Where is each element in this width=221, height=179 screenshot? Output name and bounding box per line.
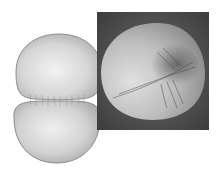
upper-cell-lobe bbox=[16, 34, 102, 100]
electron-micrograph-panel bbox=[97, 12, 209, 130]
lower-cell-lobe bbox=[14, 101, 100, 163]
micrograph-cell bbox=[101, 23, 205, 120]
